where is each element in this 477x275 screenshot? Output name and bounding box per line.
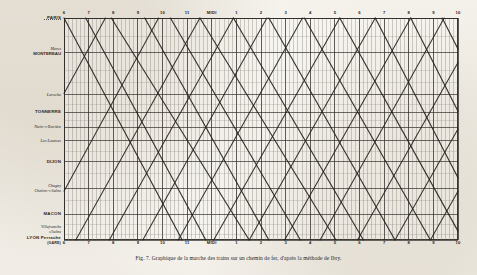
station-label-text: MACON (44, 211, 62, 216)
station-label-line2: (GARE) (27, 240, 61, 244)
hour-tick-label-bottom-0: 6 (63, 240, 65, 245)
train-line-descendant-11 (375, 18, 458, 178)
hour-tick-label-bottom-8: 2 (260, 240, 262, 245)
hour-tick-label-top-12: 6 (358, 10, 360, 15)
hour-tick-label-top-0: 6 (63, 10, 65, 15)
hour-tick-label-bottom-7: 1 (235, 240, 237, 245)
train-line-descendant-5 (170, 18, 300, 240)
hour-tick-label-bottom-4: 10 (160, 240, 165, 245)
station-label-text: Nuits-s-Ravière (34, 124, 61, 129)
station-label-line2: MONTEREAU (33, 52, 61, 57)
station-label-2: Laroche (47, 92, 61, 96)
train-line-montant-12 (395, 129, 458, 240)
station-label-10: LYON Perrache(GARE) (27, 236, 61, 245)
hour-tick-label-top-9: 3 (284, 10, 286, 15)
hour-tick-label-bottom-12: 6 (358, 240, 360, 245)
hour-tick-label-bottom-3: 9 (137, 240, 139, 245)
hour-tick-label-top-1: 7 (87, 10, 89, 15)
station-label-4: Nuits-s-Ravière (34, 125, 61, 129)
train-line-montant-13 (430, 191, 458, 240)
train-line-descendant-2 (86, 18, 206, 240)
hour-tick-label-bottom-14: 8 (408, 240, 410, 245)
hour-tick-label-bottom-11: 5 (334, 240, 336, 245)
hour-tick-label-bottom-6: MIDI (207, 240, 217, 245)
train-trajectory-lines (64, 18, 458, 240)
station-label-8: MACON (44, 212, 62, 216)
hour-tick-label-top-11: 5 (334, 10, 336, 15)
hour-tick-label-bottom-16: 10 (456, 240, 461, 245)
train-line-descendant-13 (442, 18, 458, 49)
station-label-6: DIJON (47, 160, 61, 164)
train-line-montant-4 (109, 18, 233, 240)
hour-tick-label-top-4: 10 (160, 10, 165, 15)
station-label-line2: Chalons-s-Saône (34, 189, 61, 193)
train-graph-figure: PARISMarozMONTEREAULarocheTONNERRENuits-… (0, 0, 477, 275)
station-label-3: TONNERRE (35, 110, 61, 114)
station-label-text: Les Laumes (41, 137, 61, 142)
train-line-descendant-4 (145, 18, 269, 240)
train-line-montant-7 (214, 18, 340, 240)
graph-plot-area[interactable] (64, 18, 458, 240)
train-line-descendant-3 (111, 18, 249, 240)
hour-tick-label-top-5: 11 (185, 10, 190, 15)
hour-tick-label-top-7: 1 (235, 10, 237, 15)
station-label-9: Villefranches/Saône (41, 225, 61, 234)
train-line-descendant-7 (233, 18, 363, 240)
hour-tick-label-top-3: 9 (137, 10, 139, 15)
station-label-text: DIJON (47, 159, 61, 164)
hour-tick-label-top-15: 9 (432, 10, 434, 15)
train-line-layer (64, 18, 458, 240)
hour-tick-label-top-6: MIDI (207, 10, 217, 15)
train-line-montant-5 (143, 18, 267, 240)
hour-tick-label-top-16: 10 (456, 10, 461, 15)
hour-tick-label-bottom-5: 11 (185, 240, 190, 245)
hour-tick-label-top-14: 8 (408, 10, 410, 15)
hour-tick-label-bottom-13: 7 (383, 240, 385, 245)
train-line-montant-11 (358, 62, 459, 240)
train-line-descendant-9 (304, 18, 430, 240)
station-label-line2: s/Saône (41, 229, 61, 233)
hour-axis-top: 67891011MIDI12345678910 (64, 6, 458, 18)
station-leader-dots (44, 19, 61, 20)
hour-tick-label-bottom-9: 3 (284, 240, 286, 245)
train-line-montant-10 (320, 18, 444, 240)
hour-tick-label-top-8: 2 (260, 10, 262, 15)
figure-caption: Fig. 7. Graphique de la marche des train… (0, 255, 477, 261)
station-label-7: ChagnyChalons-s-Saône (34, 184, 61, 193)
hour-tick-label-top-10: 4 (309, 10, 311, 15)
hour-tick-label-bottom-1: 7 (87, 240, 89, 245)
station-label-line1: Villefranche (41, 225, 61, 230)
station-label-5: Les Laumes (41, 138, 61, 142)
train-line-montant-3 (76, 18, 200, 240)
hour-axis-bottom: 67891011MIDI12345678910 (64, 240, 458, 252)
station-label-text: TONNERRE (35, 109, 61, 114)
hour-tick-label-bottom-10: 4 (309, 240, 311, 245)
train-line-montant-9 (285, 18, 411, 240)
hour-tick-label-bottom-15: 9 (432, 240, 434, 245)
station-label-1: MarozMONTEREAU (33, 48, 61, 57)
hour-tick-label-top-2: 8 (112, 10, 114, 15)
station-label-text: Laroche (47, 91, 61, 96)
train-line-montant-6 (178, 18, 302, 240)
train-line-descendant-1 (64, 18, 182, 240)
station-label-column: PARISMarozMONTEREAULarocheTONNERRENuits-… (0, 18, 64, 240)
hour-tick-label-bottom-2: 8 (112, 240, 114, 245)
hour-tick-label-top-13: 7 (383, 10, 385, 15)
